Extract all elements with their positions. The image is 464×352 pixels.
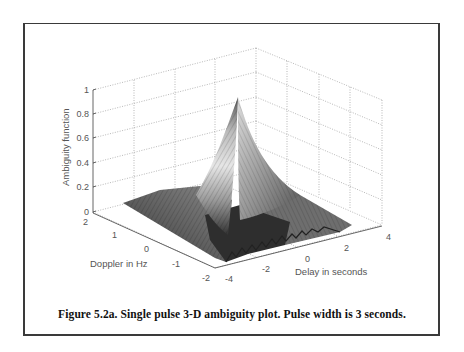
x-tick: -4 [225,274,233,284]
y-tick: 2 [83,217,88,227]
x-tick: 2 [344,243,349,253]
x-tick: 4 [386,232,391,242]
z-tick: 0.2 [76,182,89,192]
y-tick: -2 [202,273,210,283]
z-tick: 0.6 [76,133,89,143]
y-tick: 0 [144,244,149,254]
ambiguity-surface-plot: 1 0.8 0.6 0.4 0.2 0 Ambiguity function 2… [0,0,464,352]
y-tick: 1 [112,230,117,240]
z-tick: 0.4 [76,158,89,168]
y-tick: -1 [172,259,180,269]
x-tick: 0 [305,254,310,264]
figure-caption: Figure 5.2a. Single pulse 3-D ambiguity … [0,308,464,320]
z-axis-label: Ambiguity function [60,108,71,186]
x-axis-label: Delay in seconds [295,266,368,277]
y-axis-label: Doppler in Hz [90,258,148,269]
surface [123,97,352,262]
z-tick: 0.8 [76,109,89,119]
z-tick: 0 [84,207,89,217]
z-tick-labels: 1 0.8 0.6 0.4 0.2 0 [76,85,89,217]
z-tick: 1 [84,85,89,95]
z-axis [93,89,96,213]
x-tick: -2 [262,264,270,274]
